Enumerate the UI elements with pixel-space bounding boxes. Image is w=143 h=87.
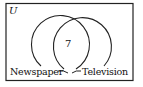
television-connector xyxy=(72,71,81,73)
newspaper-circle xyxy=(31,16,89,69)
intersection-count: 7 xyxy=(65,39,71,49)
newspaper-label: Newspaper xyxy=(10,67,63,77)
television-label: Television xyxy=(82,67,128,77)
universe-label: U xyxy=(9,6,17,16)
